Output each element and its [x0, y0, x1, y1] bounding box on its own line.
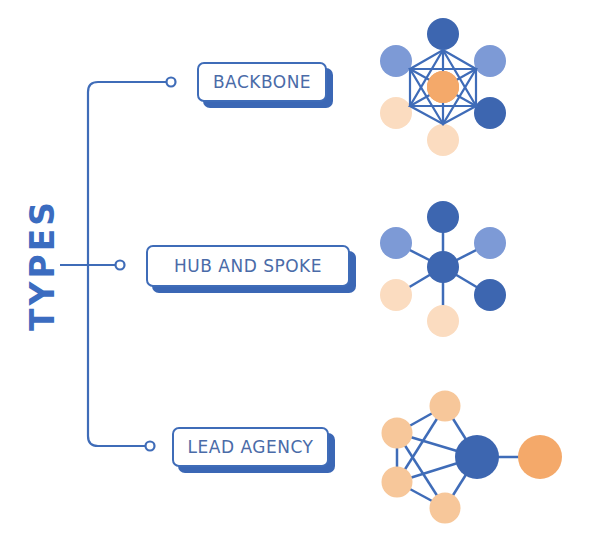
spoke-node-lower-right: [474, 279, 506, 311]
backbone-node-lower-right: [474, 97, 506, 129]
external-node: [518, 435, 562, 479]
agency-node-upper-left: [382, 418, 413, 449]
label-hub-and-spoke: HUB AND SPOKE: [146, 245, 350, 287]
connector-node-backbone: [167, 78, 176, 87]
backbone-diagram: [380, 18, 506, 156]
agency-node-bottom: [430, 493, 461, 524]
agency-node-lower-left: [382, 467, 413, 498]
agency-node-top: [430, 391, 461, 422]
backbone-node-top: [427, 18, 459, 50]
spoke-node-bottom: [427, 305, 459, 337]
hub-and-spoke-diagram: [380, 201, 506, 337]
spoke-node-lower-left: [380, 279, 412, 311]
spoke-node-upper-right: [474, 227, 506, 259]
backbone-node-upper-left: [380, 45, 412, 77]
lead-agency-diagram: [382, 391, 563, 524]
label-lead-agency: LEAD AGENCY: [172, 427, 329, 467]
spoke-node-top: [427, 201, 459, 233]
backbone-node-bottom: [427, 124, 459, 156]
types-title: TYPES: [23, 199, 62, 331]
label-backbone: BACKBONE: [197, 62, 327, 102]
lead-agency-node: [455, 435, 499, 479]
spoke-node-upper-left: [380, 227, 412, 259]
connector-node-hub: [116, 261, 125, 270]
hub-node-center: [427, 251, 459, 283]
backbone-node-center-fill: [427, 71, 459, 103]
backbone-node-upper-right: [474, 45, 506, 77]
connector-node-lead: [146, 442, 155, 451]
backbone-node-lower-left: [380, 97, 412, 129]
